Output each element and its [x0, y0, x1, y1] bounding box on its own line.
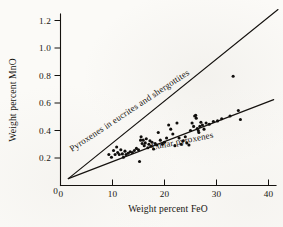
data-point	[114, 153, 117, 156]
data-point	[189, 129, 192, 132]
data-point	[175, 121, 178, 124]
x-tick-label-0: 0	[59, 189, 64, 199]
data-point	[228, 115, 231, 118]
data-point	[237, 109, 240, 112]
data-point	[169, 128, 172, 131]
x-axis-ticks	[61, 180, 269, 186]
data-point	[197, 131, 200, 134]
data-point	[182, 139, 185, 142]
data-point	[195, 117, 198, 120]
data-point	[144, 141, 147, 144]
y-origin-label: 0	[53, 186, 58, 196]
data-point	[123, 150, 126, 153]
chart-page: 0.2 0.4 0.6 0.8 1.0 1.2 0 0 10 20 30 40 …	[0, 0, 283, 227]
data-point	[191, 121, 194, 124]
data-point	[173, 144, 176, 147]
data-point	[112, 149, 115, 152]
data-point	[201, 123, 204, 126]
data-point	[140, 135, 143, 138]
scatter-points-layer	[107, 75, 242, 163]
y-tick-label-5: 1.2	[39, 16, 51, 26]
x-axis-title: Weight percent FeO	[128, 203, 208, 214]
data-point	[159, 139, 162, 142]
data-point	[212, 120, 215, 123]
data-point	[150, 141, 153, 144]
x-tick-label-1: 10	[108, 189, 118, 199]
data-point	[208, 123, 211, 126]
data-point	[118, 153, 121, 156]
y-axis-title: Weight percent MnO	[7, 58, 18, 141]
data-point	[187, 143, 190, 146]
data-point	[122, 156, 125, 159]
eucrite-shergottite-trend-line	[68, 10, 278, 179]
data-point	[138, 160, 141, 163]
data-point	[220, 117, 223, 120]
data-point	[137, 148, 140, 151]
data-point	[194, 114, 197, 117]
data-point	[119, 148, 122, 151]
y-tick-label-2: 0.6	[39, 98, 51, 108]
x-tick-label-3: 30	[212, 189, 222, 199]
y-tick-label-4: 1.0	[39, 43, 51, 53]
data-point	[110, 156, 113, 159]
data-point	[107, 153, 110, 156]
data-point	[239, 118, 242, 121]
data-point	[192, 125, 195, 128]
data-point	[142, 139, 145, 142]
data-point	[199, 121, 202, 124]
y-tick-label-3: 0.8	[39, 71, 51, 81]
data-point	[184, 135, 187, 138]
data-point	[167, 123, 170, 126]
data-point	[205, 121, 208, 124]
data-point	[146, 146, 149, 149]
data-point	[216, 119, 219, 122]
data-point	[115, 145, 118, 148]
data-point	[163, 141, 166, 144]
y-tick-label-1: 0.4	[39, 126, 51, 136]
data-point	[121, 152, 124, 155]
y-axis-ticks	[55, 21, 61, 159]
data-point	[157, 131, 160, 134]
data-point	[202, 128, 205, 131]
data-point	[180, 143, 183, 146]
x-tick-label-4: 40	[264, 189, 274, 199]
data-point	[171, 132, 174, 135]
data-point	[165, 137, 168, 140]
data-point	[143, 144, 146, 147]
data-point	[149, 145, 152, 148]
data-point	[152, 148, 155, 151]
data-point	[155, 143, 158, 146]
x-tick-label-2: 20	[160, 189, 170, 199]
data-point	[145, 137, 148, 140]
data-point	[178, 137, 181, 140]
y-tick-label-0: 0.2	[39, 153, 51, 163]
data-point	[232, 75, 235, 78]
mno-feo-scatter-plot: 0.2 0.4 0.6 0.8 1.0 1.2 0 0 10 20 30 40 …	[0, 0, 283, 227]
